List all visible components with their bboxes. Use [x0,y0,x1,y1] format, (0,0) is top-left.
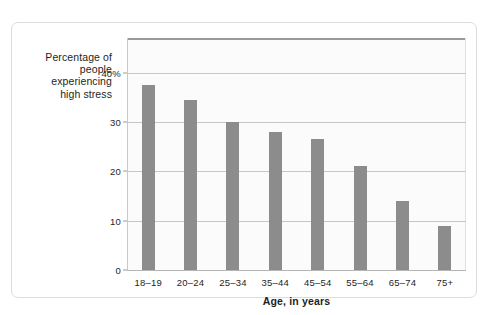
bar [269,132,282,270]
y-axis-tick-label: 10 [110,215,121,226]
y-axis-title: Percentage of people experiencing high s… [20,51,112,100]
bar [184,100,197,270]
bar [311,139,324,270]
x-axis-tick-label: 25–34 [219,277,246,288]
bar [226,122,239,270]
plot-area: 010203040% 18–1920–2425–3435–4445–5455–6… [127,38,466,270]
x-axis-tick-label: 55–64 [346,277,373,288]
y-axis-tick-mark [123,121,127,122]
y-axis-title-line-4: high stress [20,88,112,100]
x-axis-tick-label: 45–54 [304,277,331,288]
y-axis-tick-mark [123,220,127,221]
y-axis-title-line-2: people [20,63,112,75]
bar [396,201,409,270]
gridline [127,221,466,222]
bar [354,166,367,270]
y-axis-title-line-3: experiencing [20,75,112,87]
y-axis-tick-label: 20 [110,166,121,177]
x-axis-tick-label: 75+ [436,277,453,288]
y-axis-tick-label: 40% [101,67,121,78]
gridline [127,122,466,123]
x-axis-tick-label: 65–74 [389,277,416,288]
x-axis-title: Age, in years [127,295,466,307]
page-top-margin [0,0,490,20]
y-axis-tick-label: 0 [116,265,121,276]
bar [438,226,451,270]
y-axis-tick-mark [123,171,127,172]
y-axis-tick-mark [123,72,127,73]
gridline [127,270,466,271]
x-axis-tick-label: 18–19 [134,277,161,288]
gridline [127,73,466,74]
x-axis-tick-label: 20–24 [177,277,204,288]
figure-card: Percentage of people experiencing high s… [11,22,477,298]
bar [142,85,155,270]
y-axis-title-line-1: Percentage of [20,51,112,63]
y-axis-tick-mark [123,270,127,271]
gridline [127,171,466,172]
y-axis-tick-label: 30 [110,116,121,127]
x-axis-tick-label: 35–44 [262,277,289,288]
